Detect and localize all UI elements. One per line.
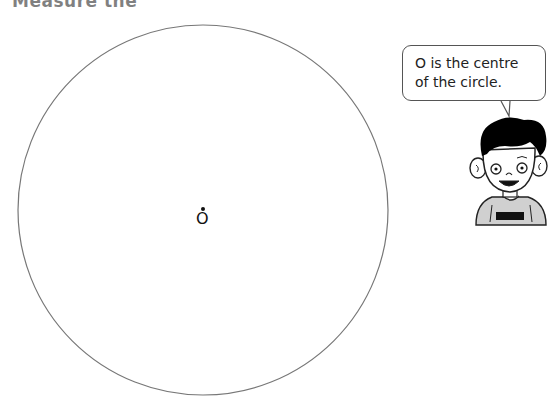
boy-character-icon [470, 117, 547, 225]
center-label: O [196, 211, 209, 227]
speech-bubble-tail [501, 100, 510, 116]
speech-bubble: O is the centre of the circle. [402, 45, 546, 101]
speech-bubble-text: O is the centre of the circle. [415, 54, 518, 92]
